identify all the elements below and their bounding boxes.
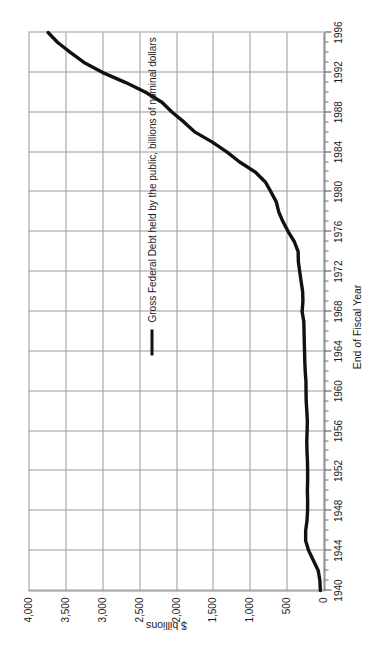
x-tick-label-1968: 1968 (332, 300, 343, 322)
axis-tick-1948 (324, 509, 331, 510)
axis-tick-1943 (324, 559, 328, 560)
x-tick-label-1964: 1964 (332, 340, 343, 362)
axis-tick-1953 (324, 459, 328, 460)
axis-tick-1983 (324, 161, 328, 162)
axis-tick-1957 (324, 420, 328, 421)
chart-legend: Gross Federal Debt held by the public, b… (146, 37, 157, 355)
axis-tick-1966 (324, 330, 328, 331)
axis-tick-1994 (324, 51, 328, 52)
axis-tick-1949 (324, 499, 328, 500)
y-tick-label-0: 0 (318, 597, 329, 653)
x-tick-label-1960: 1960 (332, 380, 343, 402)
axis-tick-1945 (324, 539, 328, 540)
axis-tick-1973 (324, 260, 328, 261)
legend-label: Gross Federal Debt held by the public, b… (146, 37, 157, 322)
axis-tick-1991 (324, 81, 328, 82)
axis-tick-1971 (324, 280, 328, 281)
axis-tick-1954 (324, 450, 328, 451)
axis-tick-1988 (324, 111, 331, 112)
axis-tick-1980 (324, 190, 331, 191)
axis-tick-1990 (324, 91, 328, 92)
axis-tick-1969 (324, 300, 328, 301)
x-tick-label-1948: 1948 (332, 499, 343, 521)
axis-tick-1944 (324, 549, 331, 550)
axis-tick-1984 (324, 151, 331, 152)
axis-tick-1964 (324, 350, 331, 351)
x-tick-label-1976: 1976 (332, 220, 343, 242)
x-tick-label-1984: 1984 (332, 140, 343, 162)
plot-area: Gross Federal Debt held by the public, b… (28, 32, 323, 590)
axis-tick-1987 (324, 121, 328, 122)
axis-tick-1940 (324, 589, 331, 590)
axis-tick-1950 (324, 489, 328, 490)
x-tick-label-1956: 1956 (332, 419, 343, 441)
axis-tick-1955 (324, 440, 328, 441)
axis-tick-1982 (324, 171, 328, 172)
axis-tick-1975 (324, 240, 328, 241)
axis-tick-1965 (324, 340, 328, 341)
x-tick-label-1992: 1992 (332, 61, 343, 83)
axis-tick-1974 (324, 250, 328, 251)
axis-tick-1942 (324, 569, 328, 570)
axis-tick-1951 (324, 479, 328, 480)
x-tick-label-1980: 1980 (332, 180, 343, 202)
axis-tick-1992 (324, 71, 331, 72)
x-tick-label-1996: 1996 (332, 21, 343, 43)
axis-tick-1941 (324, 579, 328, 580)
axis-tick-1970 (324, 290, 328, 291)
y-axis-title: $ billions (66, 619, 266, 631)
axis-tick-1956 (324, 430, 331, 431)
series-layer (28, 32, 323, 590)
x-tick-label-1988: 1988 (332, 101, 343, 123)
axis-tick-1959 (324, 400, 328, 401)
chart-figure: Gross Federal Debt held by the public, b… (0, 0, 386, 653)
axis-tick-1947 (324, 519, 328, 520)
axis-tick-1976 (324, 230, 331, 231)
y-tick-label-500: 500 (281, 597, 292, 653)
x-tick-label-1944: 1944 (332, 539, 343, 561)
y-tick-label-4000: 4,000 (23, 597, 34, 653)
axis-tick-1961 (324, 380, 328, 381)
axis-tick-1978 (324, 210, 328, 211)
x-tick-label-1952: 1952 (332, 459, 343, 481)
axis-tick-1985 (324, 141, 328, 142)
x-tick-label-1972: 1972 (332, 260, 343, 282)
axis-tick-1967 (324, 320, 328, 321)
axis-tick-1986 (324, 131, 328, 132)
axis-tick-1960 (324, 390, 331, 391)
axis-tick-1977 (324, 220, 328, 221)
x-axis-title: End of Fiscal Year (350, 0, 362, 653)
axis-tick-1995 (324, 41, 328, 42)
legend-line-swatch (150, 329, 153, 355)
chart-page: Gross Federal Debt held by the public, b… (0, 0, 386, 653)
axis-tick-1952 (324, 469, 331, 470)
axis-tick-1962 (324, 370, 328, 371)
axis-tick-1968 (324, 310, 331, 311)
x-tick-label-1940: 1940 (332, 579, 343, 601)
axis-tick-1993 (324, 61, 328, 62)
axis-tick-1989 (324, 101, 328, 102)
axis-tick-1958 (324, 410, 328, 411)
axis-tick-1963 (324, 360, 328, 361)
axis-tick-1972 (324, 270, 331, 271)
axis-tick-1979 (324, 200, 328, 201)
series-line-gross-federal-debt (48, 32, 320, 590)
axis-tick-1996 (324, 31, 331, 32)
axis-tick-1981 (324, 180, 328, 181)
axis-tick-1946 (324, 529, 328, 530)
